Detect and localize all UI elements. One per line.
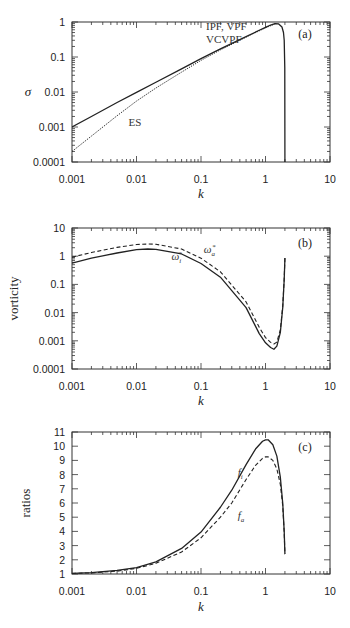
y-tick-label: 0.001 [39, 335, 65, 347]
x-axis-ticks [72, 22, 330, 162]
y-tick-label: 1 [59, 568, 65, 580]
series-annotation: VCVPF [206, 33, 241, 45]
y-tick-label: 0.01 [45, 86, 66, 98]
y-tick-label: 10 [53, 440, 65, 452]
x-tick-label: 1 [263, 380, 269, 392]
panel-tag: (b) [298, 236, 312, 250]
x-tick-label: 10 [324, 380, 336, 392]
y-tick-label: 11 [54, 426, 65, 438]
panel-c-ratios-chart: 0.0010.010.11101234567891011kratios(c)fi… [18, 426, 336, 614]
x-tick-label: 0.001 [59, 585, 85, 597]
y-tick-label: 0.0001 [33, 363, 65, 375]
x-tick-label: 0.1 [194, 380, 209, 392]
series-annotation: ωi* [172, 250, 183, 265]
line-series-solid [72, 24, 285, 162]
y-tick-label: 7 [59, 483, 65, 495]
x-tick-label: 0.01 [126, 380, 147, 392]
line-series-solid [72, 440, 285, 573]
x-tick-label: 1 [263, 585, 269, 597]
y-axis-label: σ [25, 84, 32, 99]
y-tick-label: 0.001 [39, 121, 65, 133]
y-tick-label: 6 [59, 497, 65, 509]
x-tick-label: 0.01 [126, 173, 147, 185]
y-axis-label: ratios [18, 489, 33, 518]
y-axis-label: vorticity [6, 276, 21, 321]
series-annotation: IPF, VPF [206, 20, 247, 32]
x-axis-label: k [198, 599, 204, 614]
panel-b-vorticity-chart: 0.0010.010.11100.00010.0010.010.1110kvor… [6, 222, 336, 408]
series-group [72, 24, 285, 162]
y-tick-label: 2 [59, 554, 65, 566]
y-tick-label: 5 [59, 511, 65, 523]
y-tick-label: 3 [59, 540, 65, 552]
plot-frame [72, 22, 330, 162]
x-tick-label: 0.001 [59, 173, 85, 185]
panel-tag: (a) [298, 27, 311, 41]
plot-frame [72, 432, 330, 574]
panel-a-sigma-chart: 0.0010.010.11100.00010.0010.010.11kσ(a)I… [25, 16, 336, 201]
y-tick-label: 0.01 [45, 307, 66, 319]
y-tick-label: 4 [59, 525, 65, 537]
y-tick-label: 8 [59, 469, 65, 481]
line-series-dotted [72, 24, 275, 152]
figure: 0.0010.010.11100.00010.0010.010.11kσ(a)I… [0, 0, 350, 628]
x-axis-label: k [198, 186, 204, 201]
series-annotation: ωa* [204, 243, 216, 258]
y-axis-ticks [72, 432, 330, 574]
y-tick-label: 10 [53, 222, 65, 234]
series-annotation: ES [128, 116, 141, 128]
x-axis-ticks [72, 432, 330, 574]
y-tick-label: 0.1 [50, 278, 65, 290]
panel-tag: (c) [298, 440, 311, 454]
x-tick-label: 0.01 [126, 585, 147, 597]
x-tick-label: 0.1 [194, 173, 209, 185]
x-tick-label: 10 [324, 173, 336, 185]
y-axis-ticks [72, 22, 330, 162]
x-axis-label: k [198, 393, 204, 408]
x-tick-label: 0.001 [59, 380, 85, 392]
x-tick-label: 1 [263, 173, 269, 185]
y-tick-label: 9 [59, 454, 65, 466]
line-series-dashed [72, 457, 285, 574]
x-tick-label: 10 [324, 585, 336, 597]
y-tick-label: 0.0001 [33, 156, 65, 168]
series-group [72, 440, 285, 574]
x-tick-label: 0.1 [194, 585, 209, 597]
y-tick-label: 0.1 [50, 51, 65, 63]
y-tick-label: 1 [59, 250, 65, 262]
y-tick-label: 1 [59, 16, 65, 28]
series-annotation: fa [238, 509, 245, 524]
